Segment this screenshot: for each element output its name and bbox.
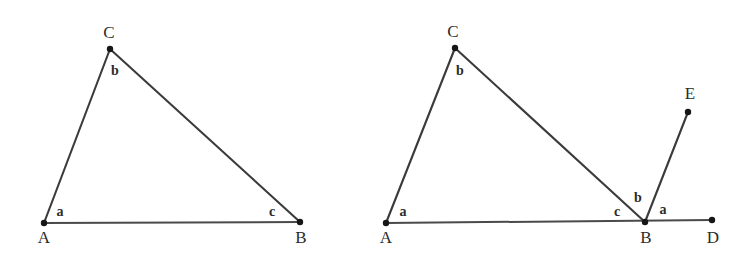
left-angle-b: b [111, 63, 119, 78]
vertex-label-e: E [685, 84, 695, 103]
right-angle-a-at-A: a [400, 204, 407, 219]
right-angle-b-at-C: b [456, 63, 464, 78]
vertex-dot-c [452, 45, 458, 51]
vertex-label-a: A [380, 228, 393, 247]
vertex-label-c: C [103, 23, 114, 42]
vertex-dot-e [685, 109, 691, 115]
vertex-label-b: B [295, 228, 306, 247]
vertex-dot-d [709, 217, 715, 223]
vertex-dot-a [383, 220, 389, 226]
vertex-label-c: C [447, 22, 458, 41]
vertex-dot-c [107, 46, 113, 52]
geometry-figure-container: ABCabcABCDEabcba [0, 0, 754, 260]
left-angle-a: a [57, 204, 64, 219]
geometry-diagram-canvas: ABCabcABCDEabcba [0, 0, 754, 260]
right-angle-a-at-B: a [660, 202, 667, 217]
vertex-label-a: A [38, 228, 51, 247]
vertex-label-d: D [707, 228, 719, 247]
right-angle-c-at-B: c [614, 204, 620, 219]
vertex-dot-b [297, 219, 303, 225]
vertex-label-b: B [640, 228, 651, 247]
left-angle-c: c [269, 204, 275, 219]
vertex-dot-a [41, 220, 47, 226]
right-angle-b-at-B: b [634, 190, 642, 205]
segment-ab [44, 222, 300, 223]
vertex-dot-b [642, 219, 648, 225]
